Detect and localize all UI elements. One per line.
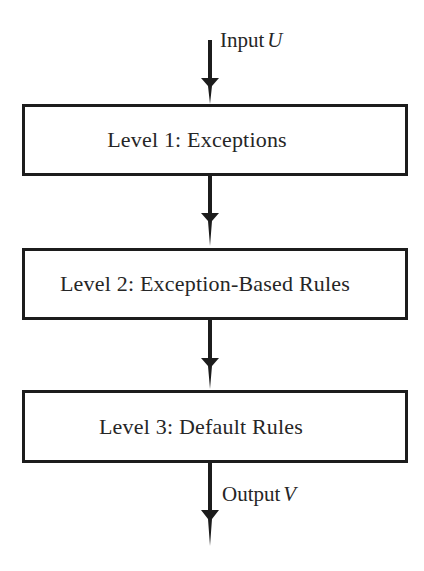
flowchart-diagram: InputU OutputV Level 1: Exceptions Level… (0, 0, 424, 571)
output-label-text: Output (222, 482, 280, 506)
output-label: OutputV (222, 484, 296, 505)
input-label-text: Input (220, 28, 264, 52)
arrow-level2-to-level3 (201, 320, 219, 389)
arrow-level1-to-level2 (201, 176, 219, 246)
process-box-level-1: Level 1: Exceptions (22, 104, 408, 176)
output-arrow (201, 463, 219, 546)
process-box-level-3: Level 3: Default Rules (22, 390, 408, 463)
input-arrow (201, 40, 219, 104)
input-label: InputU (220, 30, 283, 51)
process-box-level-1-label: Level 1: Exceptions (107, 129, 287, 151)
output-variable: V (280, 482, 296, 506)
process-box-level-3-label: Level 3: Default Rules (99, 416, 303, 438)
process-box-level-2-label: Level 2: Exception-Based Rules (60, 273, 350, 295)
input-variable: U (264, 28, 282, 52)
process-box-level-2: Level 2: Exception-Based Rules (22, 248, 408, 320)
